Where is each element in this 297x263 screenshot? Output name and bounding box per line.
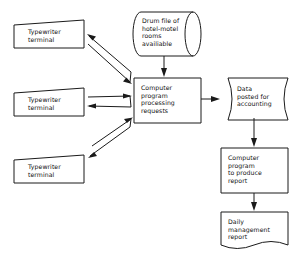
flowchart-canvas: Typewriter terminal Typewriter terminal … — [0, 0, 297, 263]
shape-data-posted[interactable] — [228, 78, 288, 120]
edge-terminal-bottom-to-process — [88, 118, 133, 159]
shape-process-requests[interactable] — [134, 78, 201, 123]
shape-terminal-top[interactable] — [14, 20, 84, 48]
flowchart-graphics — [0, 0, 297, 263]
shape-daily-report[interactable] — [221, 212, 288, 249]
shape-terminal-middle[interactable] — [14, 88, 84, 116]
shape-program-report[interactable] — [221, 148, 288, 193]
edge-program-to-daily — [251, 193, 257, 211]
edge-drum-to-process — [161, 56, 167, 77]
edge-terminal-top-to-process — [87, 34, 132, 84]
edge-data-to-program — [251, 118, 257, 147]
shape-terminal-bottom[interactable] — [14, 155, 84, 183]
edge-process-to-data — [201, 96, 220, 102]
edge-terminal-middle-to-process — [87, 94, 132, 109]
shape-drum-file[interactable] — [133, 12, 201, 56]
